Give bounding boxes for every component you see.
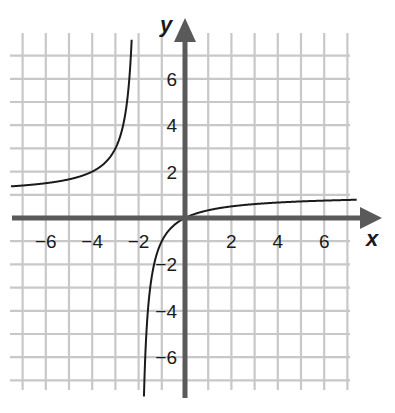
x-tick-label: 4 xyxy=(273,231,284,252)
y-tick-label: 4 xyxy=(166,115,177,136)
x-tick-label: 2 xyxy=(226,231,237,252)
x-tick-label: 6 xyxy=(319,231,330,252)
y-axis-label: y xyxy=(159,12,174,37)
x-tick-label: −2 xyxy=(128,231,150,252)
y-tick-label: −6 xyxy=(155,347,177,368)
graph: −6−4−2246642−2−4−6 x y xyxy=(0,0,395,413)
curve-left-branch xyxy=(11,40,132,187)
y-tick-label: 6 xyxy=(166,69,177,90)
x-tick-label: −6 xyxy=(35,231,57,252)
y-axis-arrow-icon xyxy=(174,18,196,42)
x-axis-label: x xyxy=(365,226,379,251)
y-tick-label: −4 xyxy=(155,301,177,322)
axes xyxy=(12,18,382,398)
y-tick-label: −2 xyxy=(155,254,177,275)
x-tick-label: −4 xyxy=(81,231,103,252)
grid xyxy=(10,33,350,390)
y-tick-label: 2 xyxy=(166,162,177,183)
